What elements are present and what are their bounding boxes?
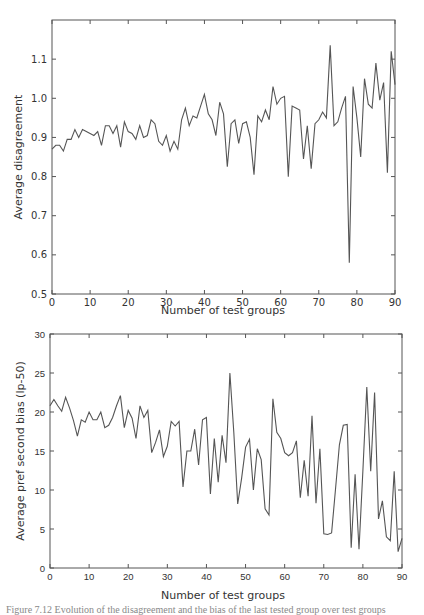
pref-bias-chart-svg: 0102030405060708090051015202530 Number o… [0, 318, 424, 603]
svg-text:0.5: 0.5 [31, 289, 47, 300]
svg-text:0.6: 0.6 [31, 249, 47, 260]
svg-text:0.9: 0.9 [31, 132, 47, 143]
svg-text:1.1: 1.1 [31, 54, 47, 65]
svg-text:90: 90 [397, 571, 408, 582]
svg-text:70: 70 [312, 297, 325, 308]
svg-text:1.0: 1.0 [31, 93, 47, 104]
pref-bias-chart: 0102030405060708090051015202530 Number o… [0, 318, 424, 603]
svg-text:20: 20 [34, 407, 45, 418]
x-axis-label: Number of test groups [161, 589, 285, 602]
svg-text:5: 5 [40, 524, 45, 535]
svg-text:40: 40 [201, 571, 212, 582]
svg-text:25: 25 [34, 368, 45, 379]
data-line [50, 373, 402, 552]
svg-text:10: 10 [84, 297, 97, 308]
svg-text:50: 50 [240, 571, 251, 582]
svg-text:90: 90 [389, 297, 402, 308]
svg-text:0: 0 [49, 297, 55, 308]
svg-text:10: 10 [84, 571, 95, 582]
svg-text:20: 20 [122, 297, 135, 308]
svg-text:70: 70 [318, 571, 329, 582]
svg-text:15: 15 [34, 446, 45, 457]
disagreement-chart-svg: 01020304050607080900.50.60.70.80.91.01.1… [0, 0, 424, 318]
tick-marks [52, 20, 395, 294]
y-axis-label: Average disagreement [12, 94, 25, 219]
svg-text:0.7: 0.7 [31, 210, 47, 221]
svg-text:30: 30 [162, 571, 173, 582]
svg-text:80: 80 [351, 297, 364, 308]
svg-text:30: 30 [34, 329, 45, 340]
svg-text:20: 20 [123, 571, 134, 582]
figure-caption: Figure 7.12 Evolution of the disagreemen… [0, 604, 424, 615]
disagreement-chart: 01020304050607080900.50.60.70.80.91.01.1… [0, 0, 424, 318]
tick-labels: 01020304050607080900.50.60.70.80.91.01.1 [31, 54, 401, 308]
svg-text:0: 0 [40, 563, 45, 574]
y-axis-label: Average pref second bias (lp-50) [14, 361, 27, 540]
svg-text:0: 0 [47, 571, 52, 582]
data-line [52, 45, 395, 262]
plot-area [52, 20, 395, 294]
svg-text:0.8: 0.8 [31, 171, 47, 182]
svg-text:10: 10 [34, 485, 45, 496]
svg-text:60: 60 [279, 571, 290, 582]
svg-text:80: 80 [358, 571, 369, 582]
x-axis-label: Number of test groups [161, 304, 285, 317]
